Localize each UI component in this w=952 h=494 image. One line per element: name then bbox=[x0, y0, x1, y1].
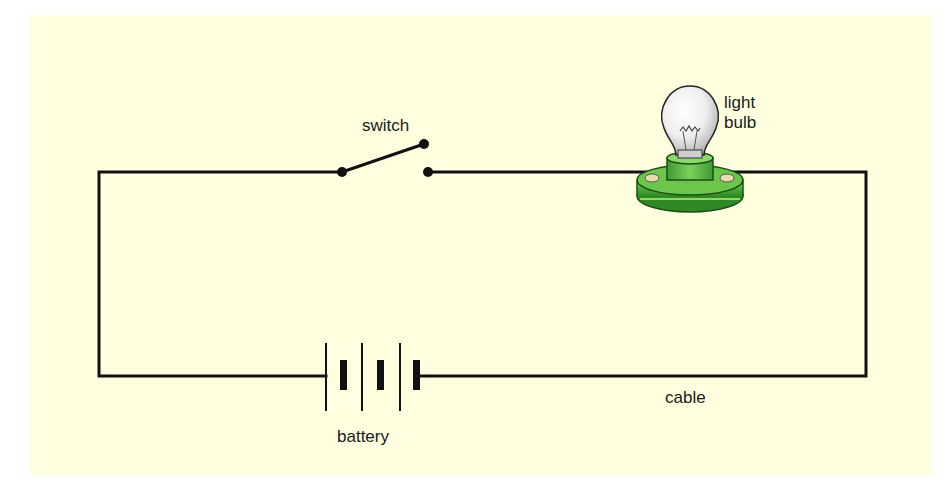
cable-label: cable bbox=[665, 388, 706, 408]
switch-label: switch bbox=[362, 116, 409, 136]
light-bulb-label-line1: light bbox=[724, 93, 755, 113]
circuit-diagram bbox=[0, 0, 952, 494]
battery-icon bbox=[325, 343, 420, 411]
cable bbox=[99, 172, 866, 376]
battery-label: battery bbox=[337, 427, 389, 447]
switch-icon bbox=[337, 139, 433, 177]
light-bulb-label-line2: bulb bbox=[724, 113, 756, 133]
